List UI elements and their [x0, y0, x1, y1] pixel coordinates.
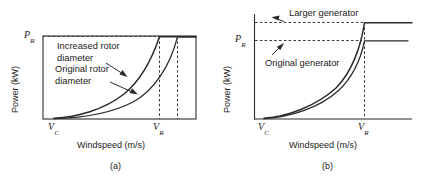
panel-b-caption: (b): [322, 161, 333, 171]
panel-a-annotation-arrow-1: [106, 63, 128, 77]
panel-b-annotation-original-generator: Original generator: [265, 58, 339, 70]
figure-container: Power (kW) PR VC VR Increased rotor diam…: [0, 0, 423, 180]
panel-a-y-axis-title: Power (kW): [10, 66, 20, 113]
panel-a-annotation-1-line-2: diameter: [57, 53, 93, 63]
panel-b-annotation-larger-generator: Larger generator: [289, 8, 358, 20]
chart-panel-b: Power (kW) PR VC VR Larger generator Ori…: [212, 0, 423, 180]
panel-a-annotation-2-line-1: Original rotor: [55, 64, 109, 74]
panel-b-curve-original-generator: [264, 41, 408, 119]
panel-b-ytick-pr: PR: [235, 33, 246, 49]
panel-b-annotation-arrow-2: [272, 43, 284, 55]
panel-a-annotation-increased-rotor: Increased rotor diameter: [57, 41, 120, 64]
panel-b-x-axis-title: Windspeed (m/s): [289, 140, 357, 150]
panel-a-annotation-2-line-2: diameter: [55, 76, 91, 86]
panel-b-y-axis-title: Power (kW): [222, 66, 232, 113]
panel-a-xtick-vr: VR: [153, 121, 164, 137]
panel-a-xtick-vc: VC: [48, 121, 59, 137]
panel-a-annotation-original-rotor: Original rotor diameter: [55, 64, 109, 87]
panel-b-xtick-vc: VC: [258, 121, 269, 137]
chart-panel-a: Power (kW) PR VC VR Increased rotor diam…: [0, 0, 211, 180]
panel-a-caption: (a): [110, 161, 121, 171]
panel-a-plot: [0, 0, 211, 180]
panel-b-plot: [212, 0, 423, 180]
panel-b-xtick-vr: VR: [358, 121, 369, 137]
panel-b-annotation-arrow-1: [272, 16, 285, 22]
panel-a-x-axis-title: Windspeed (m/s): [77, 140, 145, 150]
panel-b-curve-larger-generator: [264, 23, 412, 118]
panel-a-annotation-1-line-1: Increased rotor: [57, 41, 120, 51]
panel-a-ytick-pr: PR: [24, 29, 35, 45]
